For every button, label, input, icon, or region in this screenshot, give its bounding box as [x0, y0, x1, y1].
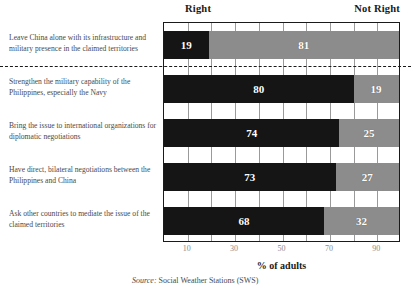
bar-rows: 19818019742573276832: [164, 23, 399, 241]
bar-value-label: 74: [246, 128, 257, 139]
x-axis-ticks: 1030507090: [163, 244, 400, 257]
x-axis-tick-label: 30: [230, 244, 238, 253]
category-label: Ask other countries to mediate the issue…: [9, 209, 157, 231]
plot-area: 19818019742573276832: [163, 22, 400, 242]
bar-segment-not-right: 81: [209, 31, 399, 59]
bar-segment-right: 73: [164, 163, 336, 191]
bar-segment-not-right: 19: [354, 75, 399, 103]
bar-value-label: 25: [364, 128, 375, 139]
bar-value-label: 32: [356, 216, 367, 227]
bar-segment-not-right: 27: [336, 163, 399, 191]
chart-header: Right Not Right: [163, 3, 400, 20]
bar-row: 7425: [164, 119, 399, 147]
category-group-separator: [0, 66, 411, 67]
category-label: Bring the issue to international organiz…: [9, 121, 157, 143]
bar-value-label: 73: [244, 172, 255, 183]
category-label: Have direct, bilateral negotiations betw…: [9, 165, 157, 187]
legend-label-not-right: Not Right: [354, 3, 400, 14]
category-label: Strengthen the military capability of th…: [9, 77, 157, 99]
x-axis-tick-label: 10: [183, 244, 191, 253]
x-axis-tick-label: 50: [278, 244, 286, 253]
bar-segment-right: 19: [164, 31, 209, 59]
bar-value-label: 68: [238, 216, 249, 227]
bar-segment-right: 80: [164, 75, 354, 103]
bar-value-label: 81: [298, 40, 309, 51]
x-axis-title: % of adults: [163, 260, 400, 271]
category-label: Leave China alone with its infrastructur…: [9, 33, 157, 55]
bar-segment-right: 68: [164, 207, 324, 235]
bar-segment-not-right: 32: [324, 207, 399, 235]
source-prefix: Source:: [132, 276, 157, 285]
x-axis-tick-label: 70: [325, 244, 333, 253]
category-label-list: Leave China alone with its infrastructur…: [0, 0, 160, 245]
bar-value-label: 27: [362, 172, 373, 183]
source-note: Source: Social Weather Stations (SWS): [132, 276, 258, 285]
legend-label-right: Right: [185, 3, 211, 14]
bar-row: 7327: [164, 163, 399, 191]
bar-row: 8019: [164, 75, 399, 103]
bar-row: 6832: [164, 207, 399, 235]
x-axis-tick-label: 90: [372, 244, 380, 253]
bar-value-label: 19: [371, 84, 382, 95]
bar-value-label: 80: [253, 84, 264, 95]
bar-segment-not-right: 25: [339, 119, 398, 147]
bar-row: 1981: [164, 31, 399, 59]
bar-value-label: 19: [181, 40, 192, 51]
source-text: Social Weather Stations (SWS): [157, 276, 259, 285]
bar-segment-right: 74: [164, 119, 339, 147]
